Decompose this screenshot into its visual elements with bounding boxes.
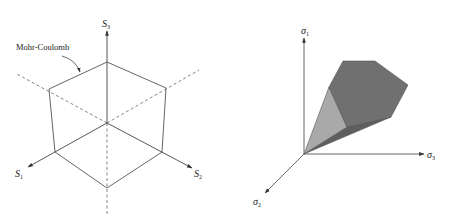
annotation-arrow <box>62 56 80 72</box>
sigma1-label: σ1 <box>301 25 309 37</box>
mohr-coulomb-deviatoric-figure: Mohr-Coulomb S3 S1 S2 <box>15 18 202 216</box>
mohr-coulomb-label: Mohr-Coulomb <box>16 42 69 52</box>
mohr-coulomb-hexagon <box>49 62 166 188</box>
diagram-canvas: Mohr-Coulomb S3 S1 S2 σ1 σ3 σ2 <box>0 0 449 221</box>
s1-label: S1 <box>15 168 23 180</box>
sigma2-label: σ2 <box>253 196 261 208</box>
s2-label: S2 <box>194 168 202 180</box>
sigma2-axis <box>265 154 304 193</box>
s2-axis <box>107 123 192 168</box>
sigma3-label: σ3 <box>427 149 435 161</box>
principal-stress-space-figure: σ1 σ3 σ2 <box>253 25 435 208</box>
s3-label: S3 <box>102 18 110 30</box>
